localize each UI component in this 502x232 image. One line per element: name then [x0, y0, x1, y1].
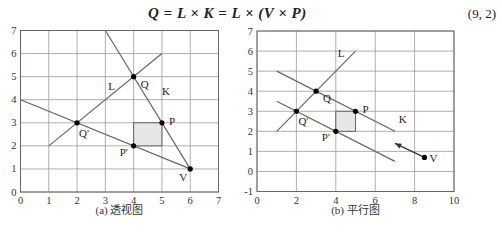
x-tick-label: 0 [18, 195, 23, 206]
chart-parallel: 0246810-101234567QPQ'P'VLK(b) 平行图 [244, 26, 459, 218]
y-tick-label: 2 [11, 140, 16, 151]
x-tick-label: 2 [74, 195, 79, 206]
point-label: V [429, 152, 437, 164]
point-p-prime [333, 129, 338, 134]
point-label: P' [120, 146, 128, 158]
x-tick-label: 6 [188, 195, 193, 206]
y-tick-label: 6 [248, 46, 253, 57]
y-tick-label: 0 [248, 166, 253, 177]
point-q-prime [74, 120, 79, 125]
point-label: Q' [79, 127, 89, 139]
x-tick-label: 7 [216, 195, 221, 206]
point-q-prime [294, 109, 299, 114]
y-tick-label: 6 [11, 48, 16, 59]
point-q [131, 74, 136, 79]
point-label: V [179, 171, 187, 183]
line-label: K [399, 113, 407, 125]
point-p-prime [131, 143, 136, 148]
y-tick-label: 4 [248, 86, 254, 97]
point-label: P' [322, 131, 330, 143]
point-label: P [363, 103, 369, 115]
y-tick-label: 7 [248, 26, 253, 37]
shaded-square [336, 111, 356, 131]
y-tick-label: 5 [248, 66, 253, 77]
y-tick-label: -1 [244, 186, 253, 197]
point-label: P [169, 115, 175, 127]
x-tick-label: 0 [254, 195, 259, 206]
point-label: Q' [298, 115, 308, 127]
y-tick-label: 4 [11, 94, 17, 105]
y-tick-label: 5 [11, 71, 16, 82]
point-v [422, 155, 427, 160]
line-label: L [108, 80, 115, 92]
y-tick-label: 3 [248, 106, 253, 117]
figure-canvas: 0123456701234567QPQ'P'VLK(a) 透视图0246810-… [0, 0, 502, 232]
chart-caption: (b) 平行图 [331, 204, 380, 217]
point-v [188, 166, 193, 171]
shaded-square [134, 123, 162, 146]
x-tick-label: 5 [159, 195, 164, 206]
line-label: L [338, 47, 345, 59]
chart-perspective: 0123456701234567QPQ'P'VLK(a) 透视图 [11, 25, 221, 217]
chart-caption: (a) 透视图 [96, 203, 144, 217]
x-tick-label: 10 [449, 195, 460, 206]
point-label: Q [323, 92, 331, 104]
point-label: Q [141, 78, 149, 90]
x-tick-label: 8 [412, 195, 417, 206]
y-tick-label: 0 [11, 187, 16, 198]
tick-labels: 0123456701234567 [11, 25, 221, 206]
y-tick-label: 3 [11, 117, 16, 128]
y-tick-label: 2 [248, 126, 253, 137]
x-tick-label: 1 [46, 195, 51, 206]
point-p [159, 120, 164, 125]
y-tick-label: 1 [11, 163, 16, 174]
point-p [353, 109, 358, 114]
y-tick-label: 1 [248, 146, 253, 157]
x-tick-label: 2 [294, 195, 299, 206]
line-label: K [162, 85, 170, 97]
y-tick-label: 7 [11, 25, 16, 36]
point-q [314, 89, 319, 94]
